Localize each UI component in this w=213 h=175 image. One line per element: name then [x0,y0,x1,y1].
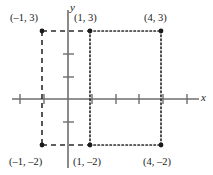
point-4-neg2 [159,143,164,148]
point-neg1-neg2 [40,143,45,148]
dotted-segments [90,31,161,145]
point-label-1-neg2: (1, –2) [73,157,101,168]
point-label-neg1-3: (–1, 3) [10,13,38,24]
plotted-points [40,29,164,148]
coordinate-plane-figure: (–1, 3) (1, 3) (4, 3) (–1, –2) (1, –2) (… [0,0,213,175]
dashed-segments [42,31,90,145]
point-label-4-3: (4, 3) [144,13,167,24]
point-label-4-neg2: (4, –2) [143,157,171,168]
x-axis-label: x [201,92,206,103]
y-axis-label: y [70,2,75,13]
point-label-1-3: (1, 3) [74,13,97,24]
point-1-3 [88,29,93,34]
point-4-3 [159,29,164,34]
point-1-neg2 [88,143,93,148]
point-neg1-3 [40,29,45,34]
coordinate-plot-svg [0,0,213,175]
point-label-neg1-neg2: (–1, –2) [9,157,42,168]
